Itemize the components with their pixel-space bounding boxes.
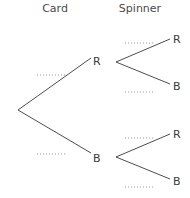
- spinner-header: Spinner: [119, 2, 162, 15]
- outcome-label-card-r: R: [93, 55, 101, 68]
- outcome-label-card-b: B: [93, 152, 101, 165]
- branch-b-spinner-r: [116, 134, 170, 157]
- outcome-label-b-r: R: [173, 128, 181, 141]
- card-header: Card: [42, 2, 68, 15]
- branch-card-b: [18, 110, 91, 153]
- outcome-label-r-r: R: [173, 33, 181, 46]
- branch-r-spinner-r: [116, 39, 170, 62]
- branch-r-spinner-b: [116, 62, 170, 84]
- branch-card-r: [18, 58, 91, 110]
- probability-tree-diagram: Card Spinner R B R B R B: [0, 0, 190, 198]
- outcome-label-r-b: B: [173, 80, 181, 93]
- branch-b-spinner-b: [116, 157, 170, 179]
- outcome-label-b-b: B: [173, 175, 181, 188]
